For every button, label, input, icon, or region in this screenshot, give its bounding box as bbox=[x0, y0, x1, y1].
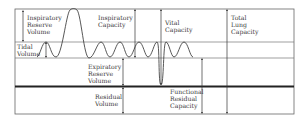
label-total-lung-capacity: Total Lung Capacity bbox=[231, 14, 259, 36]
label-inspiratory-reserve-volume: Inspiratory Reserve Volume bbox=[27, 14, 62, 36]
label-residual-volume: Residual Volume bbox=[95, 93, 122, 107]
lung-volumes-diagram: Inspiratory Reserve Volume Tidal Volume … bbox=[0, 0, 308, 121]
label-expiratory-reserve-volume: Expiratory Reserve Volume bbox=[88, 63, 121, 85]
label-tidal-volume: Tidal Volume bbox=[17, 43, 40, 57]
label-vital-capacity: Vital Capacity bbox=[165, 19, 193, 33]
label-inspiratory-capacity: Inspiratory Capacity bbox=[98, 14, 133, 28]
label-functional-residual-capacity: Functional Residual Capacity bbox=[170, 88, 204, 110]
